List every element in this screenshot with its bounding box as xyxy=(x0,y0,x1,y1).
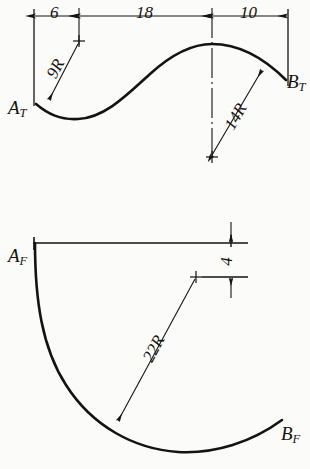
point-label-b-front-subscript: F xyxy=(293,432,301,446)
dimension-text-6: 6 xyxy=(50,4,59,21)
center-mark-22r xyxy=(190,271,202,283)
point-label-b-top-subscript: T xyxy=(299,80,306,94)
point-label-a-top-letter: A xyxy=(8,97,20,118)
point-label-a-top-subscript: T xyxy=(20,106,27,120)
point-label-b-top: BT xyxy=(287,72,306,94)
point-label-a-top: AT xyxy=(8,98,27,120)
center-mark-9r xyxy=(73,35,85,47)
point-label-a-front-letter: A xyxy=(8,245,20,266)
dimension-text-4: 4 xyxy=(218,257,235,266)
top-view-group xyxy=(34,8,288,163)
point-label-a-front-subscript: F xyxy=(20,254,28,268)
point-label-b-front-letter: B xyxy=(281,423,293,444)
point-label-b-front: BF xyxy=(281,424,300,446)
dimension-text-18: 18 xyxy=(136,4,153,21)
point-label-a-front: AF xyxy=(8,246,27,268)
dimension-text-10: 10 xyxy=(240,4,257,21)
drawing-sheet: 6 18 10 9R 14R AT BT 4 22R AF BF xyxy=(0,0,310,469)
point-label-b-top-letter: B xyxy=(287,71,299,92)
center-mark-14r xyxy=(206,151,218,163)
